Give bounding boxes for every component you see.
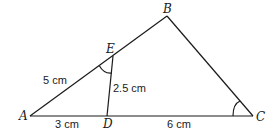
angle-arc-c xyxy=(233,101,240,116)
diagram-canvas: A B C D E 5 cm 2.5 cm 3 cm 6 cm xyxy=(0,0,278,132)
length-ad: 3 cm xyxy=(55,118,79,130)
side-bc xyxy=(167,16,253,116)
length-dc: 6 cm xyxy=(167,118,191,130)
point-label-d: D xyxy=(102,117,113,131)
length-ae: 5 cm xyxy=(43,74,67,86)
point-label-b: B xyxy=(162,2,172,16)
angle-arc-e xyxy=(100,66,113,73)
side-ab xyxy=(30,16,167,116)
point-label-c: C xyxy=(256,110,265,124)
point-label-a: A xyxy=(18,109,28,123)
triangle-diagram: A B C D E 5 cm 2.5 cm 3 cm 6 cm xyxy=(0,0,278,132)
point-label-e: E xyxy=(105,42,115,56)
length-ed: 2.5 cm xyxy=(113,82,146,94)
